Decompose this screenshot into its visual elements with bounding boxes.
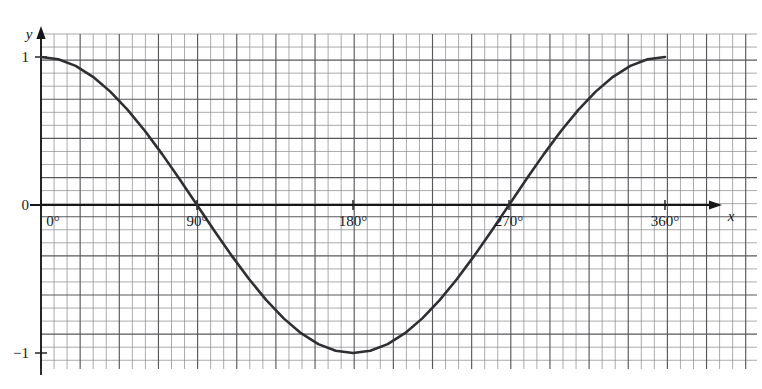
cosine-graph-figure: 10−10°90°180°270°360°xy [0, 0, 762, 389]
x-tick-label-270deg: 270° [495, 213, 524, 229]
x-axis-name-label: x [727, 208, 735, 224]
y-axis-name-label: y [24, 26, 33, 42]
y-tick-label-1: 1 [22, 49, 30, 65]
x-tick-label-360deg: 360° [651, 213, 680, 229]
x-tick-label-180deg: 180° [339, 213, 368, 229]
y-tick-label-neg1: −1 [13, 345, 29, 361]
x-tick-label-90deg: 90° [187, 213, 208, 229]
x-tick-label-0deg: 0° [46, 213, 60, 229]
y-tick-label-0: 0 [22, 197, 30, 213]
graph-canvas: 10−10°90°180°270°360°xy [0, 0, 762, 389]
